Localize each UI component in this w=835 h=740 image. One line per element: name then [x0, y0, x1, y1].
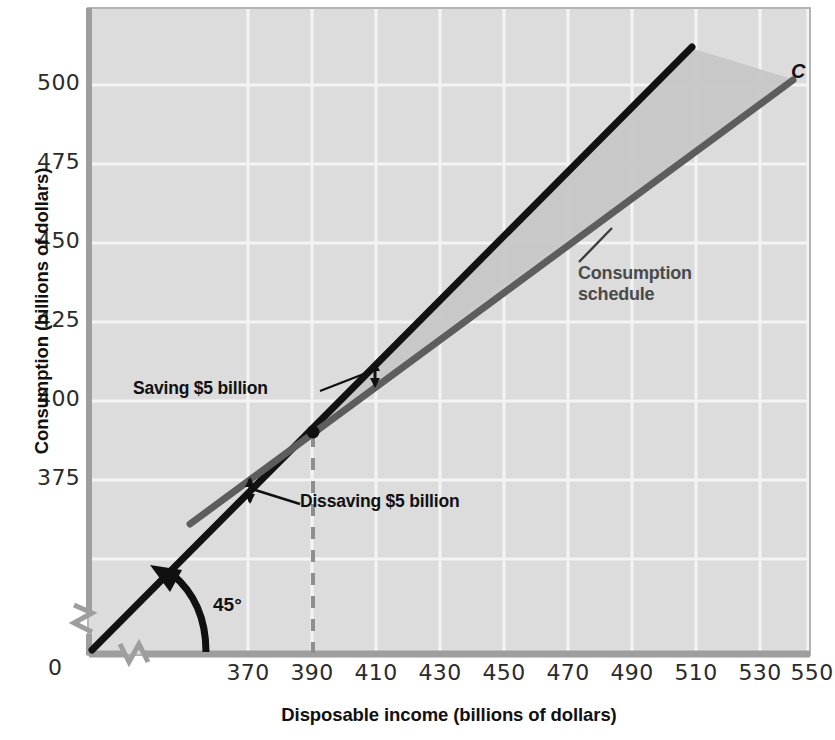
x-tick-490: 490	[611, 660, 654, 685]
origin-label: 0	[48, 655, 62, 680]
x-tick-470: 470	[547, 660, 590, 685]
x-tick-550: 550	[791, 660, 834, 685]
x-tick-430: 430	[419, 660, 462, 685]
chart-figure: 500 475 450 425 400 375 0 370 390 410 43…	[0, 0, 835, 740]
x-tick-410: 410	[355, 660, 398, 685]
chart-canvas	[0, 0, 835, 740]
equilibrium-point-dot	[307, 426, 320, 439]
dissaving-annotation-label: Dissaving $5 billion	[300, 491, 459, 512]
x-axis-title: Disposable income (billions of dollars)	[88, 704, 810, 726]
saving-annotation-label: Saving $5 billion	[133, 378, 268, 399]
consumption-schedule-annotation: Consumption schedule	[578, 263, 692, 305]
schedule-label-line2: schedule	[578, 284, 692, 305]
curve-c-label: C	[791, 60, 805, 83]
y-axis-title: Consumption (billions of dollars)	[31, 101, 53, 521]
x-tick-390: 390	[291, 660, 334, 685]
y-tick-500: 500	[18, 70, 80, 95]
angle-label: 45°	[213, 594, 242, 616]
x-tick-510: 510	[675, 660, 718, 685]
schedule-label-line1: Consumption	[578, 263, 692, 284]
x-tick-530: 530	[739, 660, 782, 685]
x-tick-370: 370	[227, 660, 270, 685]
x-tick-450: 450	[483, 660, 526, 685]
